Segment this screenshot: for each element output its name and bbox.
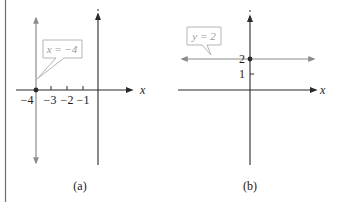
tick-label-neg1: −1 bbox=[77, 93, 90, 107]
point-0-2 bbox=[248, 57, 253, 62]
callout-b: y = 2 bbox=[187, 27, 221, 55]
x-axis-label: x bbox=[139, 83, 146, 97]
callout-b-text: y = 2 bbox=[191, 30, 216, 42]
tick-label-neg3: −3 bbox=[44, 93, 57, 107]
tick-label-1: 1 bbox=[239, 67, 245, 81]
x-axis-label: x bbox=[319, 83, 326, 97]
callout-a-text: x = −4 bbox=[46, 43, 78, 55]
caption-b: (b) bbox=[243, 179, 257, 193]
tick-label-2: 2 bbox=[239, 52, 245, 66]
point-neg4-0 bbox=[34, 88, 39, 93]
tick-label-neg2: −2 bbox=[61, 93, 74, 107]
panel-a: x −4 −3 −2 −1 x = −4 (a) bbox=[16, 9, 146, 193]
callout-a: x = −4 bbox=[37, 40, 82, 79]
panel-b: x 2 1 y = 2 (b) bbox=[178, 10, 326, 193]
figure-canvas: x −4 −3 −2 −1 x = −4 (a) x 2 1 bbox=[0, 0, 340, 202]
tick-label-neg4: −4 bbox=[21, 93, 34, 107]
caption-a: (a) bbox=[73, 179, 86, 193]
